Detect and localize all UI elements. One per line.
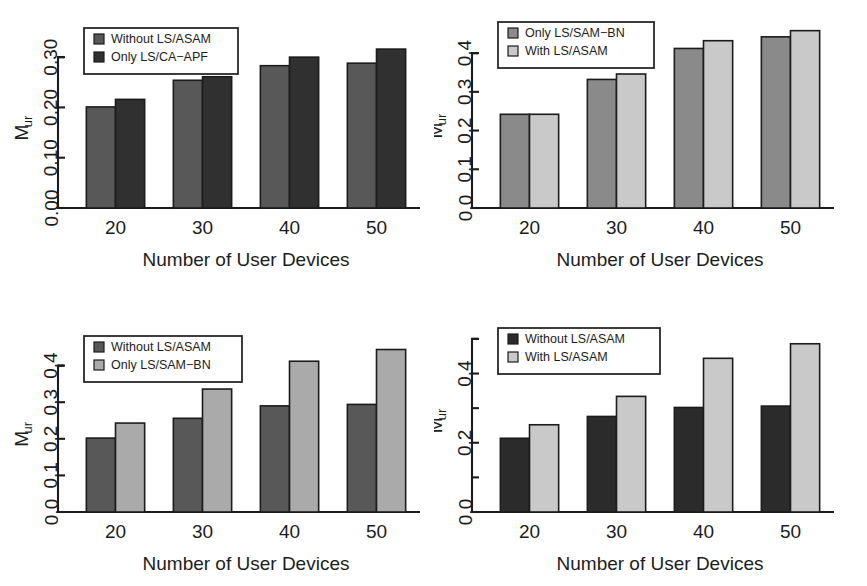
panel-bottom-right-y-tick-label: 0.0 xyxy=(455,499,476,525)
bar-50-series1 xyxy=(347,63,376,208)
panel-bottom-left-y-tick-label: 0.4 xyxy=(41,352,62,379)
panel-top-left: 0.000.100.200.30Mur20304050Number of Use… xyxy=(0,0,434,293)
panel-bottom-right: 0.00.20.4Mur20304050Number of User Devic… xyxy=(434,293,867,586)
panel-bottom-right-x-tick-label: 20 xyxy=(519,521,540,542)
panel-top-left-x-tick-label: 50 xyxy=(366,217,387,238)
bar-20-series1 xyxy=(86,107,115,208)
panel-bottom-right-x-tick-label: 30 xyxy=(606,521,627,542)
panel-bottom-left-y-tick-label: 0.3 xyxy=(41,389,62,415)
panel-top-left-legend-swatch-1 xyxy=(94,34,104,44)
panel-top-left-canvas: 0.000.100.200.30Mur20304050Number of Use… xyxy=(0,0,434,293)
panel-bottom-right-x-axis-title: Number of User Devices xyxy=(557,553,764,574)
bar-50-series2 xyxy=(377,49,406,208)
panel-bottom-left-legend-swatch-1 xyxy=(94,342,104,352)
bar-20-series2 xyxy=(530,425,559,512)
panel-top-right-y-axis-title-sub: ur xyxy=(435,113,450,125)
panel-bottom-left-x-tick-label: 40 xyxy=(279,521,300,542)
panel-bottom-right-y-tick-label: 0.4 xyxy=(455,360,476,387)
panel-top-left-legend: Without LS/ASAMOnly LS/CA−APF xyxy=(84,28,238,74)
panel-top-right-y-tick-label: 0.2 xyxy=(455,117,476,143)
bar-30-series1 xyxy=(587,79,616,208)
bar-40-series1 xyxy=(260,406,289,512)
panel-top-left-x-tick-label: 20 xyxy=(105,217,126,238)
panel-top-left-y-axis-line xyxy=(58,57,64,208)
panel-bottom-left-legend-swatch-2 xyxy=(94,360,104,370)
panel-bottom-left-legend: Without LS/ASAMOnly LS/SAM−BN xyxy=(84,336,242,382)
bar-50-series2 xyxy=(791,344,820,512)
bar-40-series2 xyxy=(704,358,733,512)
panel-bottom-right-y-axis: 0.00.20.4 xyxy=(455,339,480,525)
panel-top-right-y-axis-title: Mur xyxy=(434,113,450,138)
panel-top-left-y-axis-title: Mur xyxy=(12,115,36,140)
bar-40-series1 xyxy=(674,48,703,208)
bar-50-series2 xyxy=(791,31,820,208)
bar-20-series1 xyxy=(500,114,529,208)
panel-bottom-right-legend-label-2: With LS/ASAM xyxy=(525,350,608,364)
panel-bottom-left-x-tick-label: 30 xyxy=(192,521,213,542)
panel-bottom-right-y-axis-title: Mur xyxy=(434,408,450,433)
panel-top-left-x-axis-title: Number of User Devices xyxy=(143,249,350,270)
panel-bottom-right-x-tick-label: 40 xyxy=(693,521,714,542)
panel-top-right-y-tick-label: 0.0 xyxy=(455,195,476,221)
panel-bottom-left-y-axis-title: Mur xyxy=(12,421,36,446)
panel-bottom-left-y-tick-label: 0.0 xyxy=(41,499,62,525)
bar-40-series1 xyxy=(260,66,289,208)
panel-bottom-right-y-axis-title-sub: ur xyxy=(435,408,450,420)
panel-top-left-legend-swatch-2 xyxy=(94,52,104,62)
panel-top-left-y-axis-title-sub: ur xyxy=(21,115,36,127)
panel-bottom-left-y-tick-label: 0.1 xyxy=(41,462,62,488)
panel-top-right-x-tick-label: 50 xyxy=(780,217,801,238)
bar-20-series1 xyxy=(500,438,529,512)
panel-top-right-legend: Only LS/SAM−BNWith LS/ASAM xyxy=(498,22,654,68)
bar-50-series1 xyxy=(347,404,376,512)
panel-top-right-x-tick-label: 40 xyxy=(693,217,714,238)
panel-top-left-y-axis: 0.000.100.200.30 xyxy=(41,39,66,227)
panel-top-right-x-tick-label: 30 xyxy=(606,217,627,238)
bar-30-series1 xyxy=(587,416,616,512)
bar-40-series2 xyxy=(290,57,319,208)
bar-20-series1 xyxy=(86,438,115,512)
panel-bottom-right-canvas: 0.00.20.4Mur20304050Number of User Devic… xyxy=(434,293,867,586)
bar-40-series2 xyxy=(704,41,733,208)
panel-bottom-left-y-axis: 0.00.10.20.30.4 xyxy=(41,352,66,525)
bar-40-series1 xyxy=(674,407,703,512)
panel-top-left-y-tick-label: 0.20 xyxy=(41,89,62,126)
panel-top-left-y-tick-label: 0.00 xyxy=(41,190,62,227)
panel-bottom-left-legend-label-1: Without LS/ASAM xyxy=(111,340,211,354)
bar-20-series2 xyxy=(116,99,145,208)
bar-50-series2 xyxy=(377,350,406,512)
panel-top-left-y-tick-label: 0.30 xyxy=(41,39,62,76)
panel-top-right-legend-label-2: With LS/ASAM xyxy=(525,44,608,58)
bar-50-series1 xyxy=(761,37,790,208)
panel-bottom-right-legend-label-1: Without LS/ASAM xyxy=(525,332,625,346)
panel-top-left-y-tick-label: 0.10 xyxy=(41,139,62,176)
panel-top-right: 0.00.10.20.30.4Mur20304050Number of User… xyxy=(434,0,867,293)
figure-panel-grid: 0.000.100.200.30Mur20304050Number of Use… xyxy=(0,0,867,586)
panel-top-right-y-tick-label: 0.4 xyxy=(455,39,476,66)
panel-bottom-right-x-tick-label: 50 xyxy=(780,521,801,542)
panel-bottom-right-y-tick-label: 0.2 xyxy=(455,430,476,456)
bar-30-series2 xyxy=(203,389,232,512)
panel-bottom-left-y-tick-label: 0.2 xyxy=(41,426,62,452)
panel-top-right-legend-label-1: Only LS/SAM−BN xyxy=(525,26,625,40)
panel-top-left-x-tick-label: 40 xyxy=(279,217,300,238)
panel-bottom-left-canvas: 0.00.10.20.30.4Mur20304050Number of User… xyxy=(0,293,434,586)
panel-top-right-canvas: 0.00.10.20.30.4Mur20304050Number of User… xyxy=(434,0,867,293)
panel-top-left-x-tick-label: 30 xyxy=(192,217,213,238)
panel-top-right-legend-swatch-1 xyxy=(508,28,518,38)
panel-bottom-left-x-tick-label: 50 xyxy=(366,521,387,542)
bar-20-series2 xyxy=(530,114,559,208)
panel-top-left-legend-label-2: Only LS/CA−APF xyxy=(111,50,208,64)
bar-30-series2 xyxy=(617,396,646,512)
panel-bottom-left: 0.00.10.20.30.4Mur20304050Number of User… xyxy=(0,293,434,586)
panel-top-right-y-tick-label: 0.1 xyxy=(455,156,476,182)
bar-50-series1 xyxy=(761,406,790,512)
bar-30-series1 xyxy=(173,418,202,512)
panel-bottom-left-y-axis-title-sub: ur xyxy=(21,421,36,433)
panel-top-left-legend-label-1: Without LS/ASAM xyxy=(111,32,211,46)
bar-30-series2 xyxy=(203,77,232,208)
panel-bottom-left-x-axis-title: Number of User Devices xyxy=(143,553,350,574)
panel-top-right-legend-swatch-2 xyxy=(508,46,518,56)
panel-bottom-right-legend-swatch-1 xyxy=(508,334,518,344)
panel-bottom-right-legend: Without LS/ASAMWith LS/ASAM xyxy=(498,328,660,374)
